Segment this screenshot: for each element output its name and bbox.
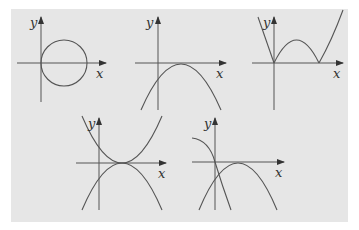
y-label: y <box>87 116 96 131</box>
graph-2-parabola: y x <box>135 15 226 110</box>
right-arm <box>319 10 343 63</box>
graph-1-circle: y x <box>17 15 106 102</box>
y-label: y <box>29 15 38 30</box>
x-label: x <box>333 66 341 81</box>
y-label: y <box>145 15 154 30</box>
graph-5-mirrored-parabolas: y x <box>192 116 284 210</box>
y-label: y <box>203 116 212 131</box>
x-label: x <box>158 166 166 181</box>
parabola-curve <box>141 64 221 110</box>
x-label: x <box>96 66 104 81</box>
x-label: x <box>216 66 224 81</box>
middle-arch <box>274 40 319 63</box>
y-label: y <box>262 15 271 30</box>
right-parabola <box>199 163 277 210</box>
graph-figure: y x y x y x y x y x <box>0 0 359 230</box>
x-label: x <box>275 165 283 180</box>
graph-3-abs-parabola: y x <box>252 10 343 110</box>
downward-parabola <box>82 163 162 210</box>
graph-4-two-parabolas: y x <box>76 116 166 210</box>
left-parabola <box>192 138 231 210</box>
